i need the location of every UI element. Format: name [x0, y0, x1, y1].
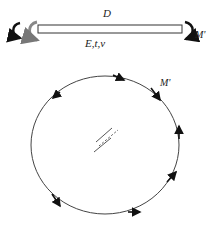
plate-strip [38, 25, 182, 33]
center-section-marks [94, 128, 118, 152]
material-properties-label: E,t,v [85, 38, 105, 49]
arrow-lower-right-icon [167, 172, 176, 182]
circle-moment-label: M' [160, 78, 170, 88]
plate-moment-label: M' [195, 30, 205, 40]
arrow-top-right-icon [151, 88, 160, 100]
diagram-canvas: D E,t,v M' M' [0, 0, 218, 230]
arrow-lower-left-icon [52, 194, 60, 206]
left-moment-gray-icon [30, 22, 38, 40]
flexural-rigidity-label: D [103, 8, 111, 19]
right-moment-icon [185, 22, 193, 39]
diagram-svg [0, 0, 218, 230]
left-moment-black-icon [13, 23, 20, 38]
